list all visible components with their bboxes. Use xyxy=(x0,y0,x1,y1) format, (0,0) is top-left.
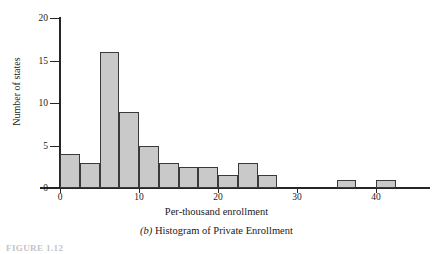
caption-text: Histogram of Private Enrollment xyxy=(155,225,293,236)
y-tick-label-20: 20 xyxy=(0,13,48,23)
y-tick-label-15: 15 xyxy=(0,56,48,66)
y-tick-5 xyxy=(50,146,59,147)
x-tick-label-40: 40 xyxy=(364,192,388,203)
histogram-bar xyxy=(159,163,179,189)
y-tick-15 xyxy=(50,61,59,62)
histogram-bar xyxy=(376,180,396,189)
histogram-bar xyxy=(100,52,120,188)
x-axis-title: Per-thousand enrollment xyxy=(0,206,433,217)
figure-number-label: FIGURE 1.12 xyxy=(6,243,63,253)
figure-histogram-private-enrollment: 05101520 010203040 Number of states Per-… xyxy=(0,0,433,254)
histogram-bar xyxy=(119,112,139,189)
caption-label: (b) xyxy=(140,225,152,236)
histogram-bar xyxy=(80,163,100,189)
histogram-bar xyxy=(337,180,357,189)
y-tick-label-10: 10 xyxy=(0,98,48,108)
histogram-bar xyxy=(198,167,218,188)
figure-caption: (b) Histogram of Private Enrollment xyxy=(0,225,433,236)
x-tick-label-0: 0 xyxy=(48,192,72,203)
histogram-bar xyxy=(218,175,238,188)
y-axis-title: Number of states xyxy=(11,32,22,152)
histogram-bar xyxy=(60,154,80,188)
y-tick-10 xyxy=(50,103,59,104)
histogram-bar xyxy=(238,163,258,189)
x-tick-label-10: 10 xyxy=(127,192,151,203)
histogram-bar xyxy=(179,167,199,188)
y-tick-20 xyxy=(50,18,59,19)
y-tick-label-5: 5 xyxy=(0,141,48,151)
y-tick-label-0: 0 xyxy=(0,183,48,193)
histogram-bar xyxy=(139,146,159,189)
x-tick-label-30: 30 xyxy=(285,192,309,203)
histogram-bar xyxy=(258,175,278,188)
x-tick-label-20: 20 xyxy=(206,192,230,203)
